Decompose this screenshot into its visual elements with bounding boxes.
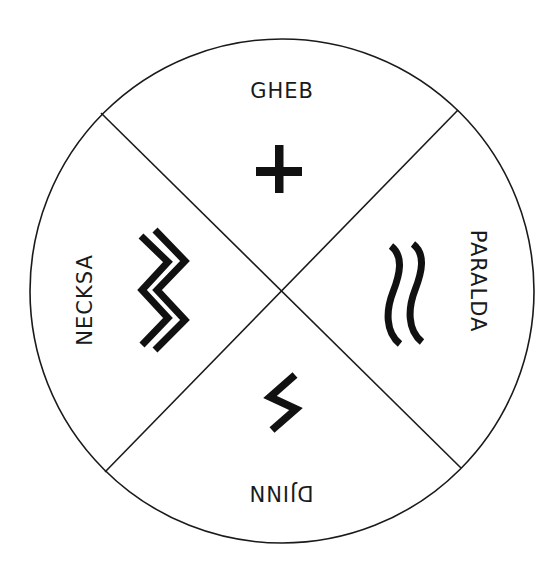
double-wave-icon: [388, 244, 422, 344]
quadrant-bottom: DJINN: [249, 375, 314, 505]
quadrant-label-djinn: DJINN: [249, 481, 314, 505]
double-zigzag-icon: [141, 230, 185, 350]
quadrant-label-necksa: NECKSA: [73, 254, 97, 346]
quadrant-right: PARALDA: [388, 230, 490, 344]
quadrant-label-gheb: GHEB: [250, 79, 314, 103]
plus-icon: [256, 145, 302, 193]
lightning-bolt-icon: [270, 375, 296, 430]
quadrant-top: GHEB: [250, 79, 314, 193]
quadrant-label-paralda: PARALDA: [466, 230, 490, 333]
elemental-quadrant-diagram: GHEB PARALDA DJINN NECKSA: [0, 0, 560, 576]
quadrant-left: NECKSA: [73, 230, 185, 350]
